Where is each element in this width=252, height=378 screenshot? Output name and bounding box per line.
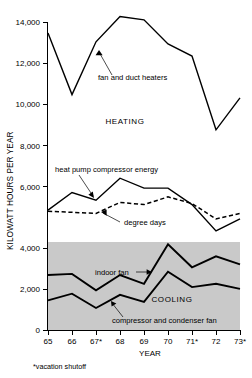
- cooling-region-label: COOLING: [151, 295, 192, 304]
- x-tick-label-66: 66: [68, 337, 77, 346]
- x-tick-label-70: 70: [164, 337, 173, 346]
- y-tick-label-4000: 4,000: [20, 244, 41, 253]
- y-tick-label-0: 0: [36, 326, 41, 335]
- energy-usage-line-chart: 14,000 12,000 10,000 8,000 6,000 4,000 2…: [0, 0, 252, 378]
- x-tick-label-68: 68: [116, 337, 125, 346]
- footnote-vacation-shutoff: *vacation shutoff: [33, 362, 86, 371]
- annotation-label-degree-days: degree days: [124, 218, 166, 227]
- y-tick-label-12000: 12,000: [16, 59, 41, 68]
- y-axis-title: KILOWATT HOURS PER YEAR: [6, 132, 15, 250]
- annotation-degree-days: degree days: [101, 210, 166, 227]
- series-degree-days: [48, 197, 240, 219]
- x-tick-label-72: 72: [212, 337, 221, 346]
- y-axis-ticks: [43, 22, 48, 330]
- x-tick-label-69: 69: [140, 337, 149, 346]
- annotation-label-heat-pump-compressor-energy: heat pump compressor energy: [55, 165, 158, 174]
- y-tick-label-6000: 6,000: [20, 183, 41, 192]
- y-tick-label-8000: 8,000: [20, 142, 41, 151]
- annotation-label-compressor-and-condenser-fan: compressor and condenser fan: [112, 316, 217, 325]
- x-tick-label-65: 65: [44, 337, 53, 346]
- x-axis-ticks: [48, 331, 240, 336]
- annotation-label-fan-and-duct-heaters: fan and duct heaters: [98, 73, 167, 82]
- x-tick-label-67: 67*: [90, 337, 102, 346]
- x-tick-label-71: 71*: [186, 337, 198, 346]
- x-axis-title: YEAR: [139, 349, 161, 358]
- x-tick-label-73: 73*: [234, 337, 246, 346]
- y-tick-label-10000: 10,000: [16, 100, 41, 109]
- chart-container: 14,000 12,000 10,000 8,000 6,000 4,000 2…: [0, 0, 252, 378]
- annotation-fan-and-duct-heaters: fan and duct heaters: [96, 50, 168, 82]
- y-tick-label-14000: 14,000: [16, 18, 41, 27]
- annotation-label-indoor-fan: indoor fan: [95, 268, 129, 277]
- y-tick-label-2000: 2,000: [20, 285, 41, 294]
- heating-region-label: HEATING: [105, 117, 144, 126]
